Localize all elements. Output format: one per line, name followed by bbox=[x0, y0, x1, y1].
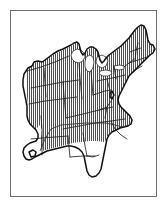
eastern-us-map bbox=[11, 11, 158, 198]
map-frame-border bbox=[10, 10, 157, 197]
hatched-range-layer bbox=[11, 11, 158, 198]
lake-ontario bbox=[114, 65, 124, 70]
lake-erie bbox=[99, 70, 112, 76]
figure-root bbox=[0, 0, 165, 208]
hatched-range-fill bbox=[11, 11, 158, 198]
